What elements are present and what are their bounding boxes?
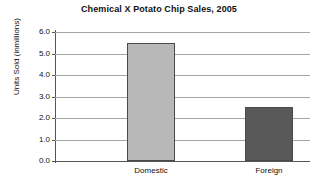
chart-title: Chemical X Potato Chip Sales, 2005: [0, 4, 318, 14]
y-tick-label: 5.0: [8, 50, 50, 58]
y-tick-label: 3.0: [8, 93, 50, 101]
y-tick-label: 0.0: [8, 157, 50, 165]
y-tick-label: 2.0: [8, 114, 50, 122]
y-tick-label: 6.0: [8, 28, 50, 36]
gridline: [55, 75, 310, 76]
y-tick-label: 1.0: [8, 136, 50, 144]
x-label-domestic: Domestic: [111, 166, 191, 175]
plot-area: [55, 32, 310, 161]
gridline: [55, 161, 310, 162]
gridline: [55, 54, 310, 55]
bar-domestic: [127, 43, 175, 161]
gridline: [55, 32, 310, 33]
gridline: [55, 97, 310, 98]
bar-foreign: [245, 107, 293, 161]
x-label-foreign: Foreign: [229, 166, 309, 175]
y-tick-label: 4.0: [8, 71, 50, 79]
bar-chart: Chemical X Potato Chip Sales, 2005 Units…: [0, 0, 318, 189]
